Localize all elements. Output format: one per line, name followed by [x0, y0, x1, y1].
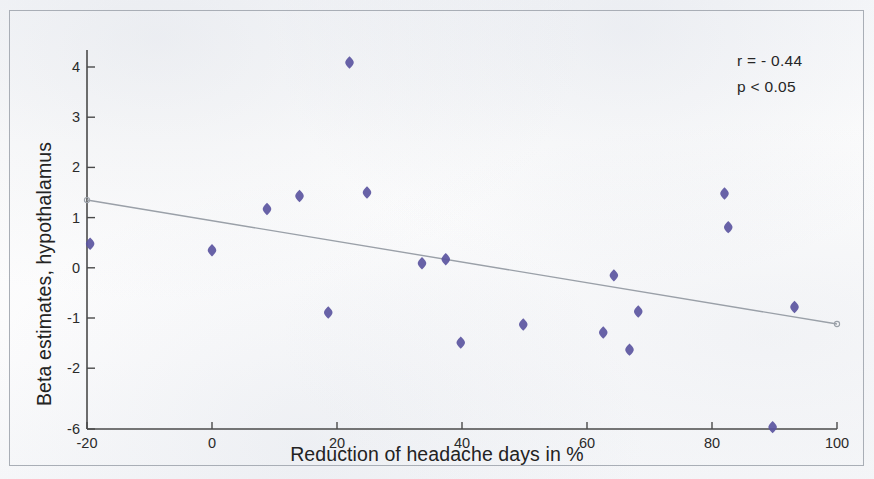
data-point-marker: [295, 190, 304, 202]
data-point-marker: [363, 186, 372, 198]
data-point-marker: [345, 56, 354, 68]
data-point-marker: [724, 221, 733, 233]
y-tick-label: 3: [50, 109, 80, 125]
data-point-marker: [720, 187, 729, 199]
data-point-marker: [599, 326, 608, 338]
x-tick-label: 80: [704, 435, 720, 451]
data-point-marker: [208, 244, 217, 256]
y-tick-label: 1: [50, 210, 80, 226]
trend-line-group: [84, 197, 839, 326]
data-point-marker: [441, 253, 450, 265]
data-point-marker: [519, 318, 528, 330]
y-tick-label: 0: [50, 260, 80, 276]
y-tick-label: -1: [50, 310, 80, 326]
x-tick-label: 60: [579, 435, 595, 451]
data-point-marker: [790, 301, 799, 313]
data-point-marker: [324, 306, 333, 318]
regression-line: [87, 200, 837, 324]
data-points-group: [86, 56, 799, 433]
y-tick-label: -2: [50, 360, 80, 376]
y-tick-label: -6: [50, 421, 80, 437]
data-point-marker: [625, 343, 634, 355]
y-tick-label: 2: [50, 159, 80, 175]
x-tick-label: 100: [825, 435, 849, 451]
data-point-marker: [610, 269, 619, 281]
x-tick-label: -20: [77, 435, 98, 451]
data-point-marker: [418, 257, 427, 269]
correlation-annotation: r = - 0.44: [737, 52, 802, 70]
x-tick-label: 40: [454, 435, 470, 451]
x-axis-title: Reduction of headache days in %: [0, 443, 874, 466]
data-point-marker: [263, 203, 272, 215]
y-tick-label: 4: [50, 59, 80, 75]
x-tick-label: 0: [208, 435, 216, 451]
figure-scatter-plot: Beta estimates, hypothalamus Reduction o…: [0, 0, 874, 479]
p-value-annotation: p < 0.05: [737, 78, 796, 96]
plot-canvas: [0, 0, 874, 479]
data-point-marker: [768, 421, 777, 433]
axes-group: [87, 50, 837, 429]
x-tick-label: 20: [329, 435, 345, 451]
data-point-marker: [634, 305, 643, 317]
data-point-marker: [456, 336, 465, 348]
